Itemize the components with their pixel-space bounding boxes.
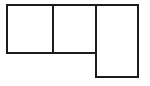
cell-middle-face: [53, 5, 96, 53]
cell-left-face: [7, 5, 53, 53]
cell-right-face: [96, 5, 138, 77]
l-shape-diagram: [0, 0, 150, 86]
diagram-canvas: [0, 0, 150, 86]
